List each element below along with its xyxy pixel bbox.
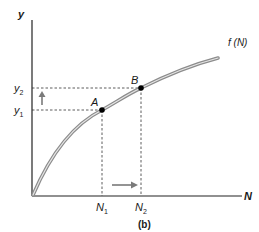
curve-f-n-highlight — [33, 58, 218, 195]
n1-label: N1 — [96, 202, 108, 215]
n1-subscript: 1 — [104, 208, 108, 215]
point-a — [99, 107, 105, 113]
n2-label: N2 — [135, 202, 147, 215]
n2-base: N — [135, 201, 143, 213]
y2-label: y2 — [14, 83, 23, 96]
y1-subscript: 1 — [20, 111, 24, 118]
n2-subscript: 2 — [143, 208, 147, 215]
x-axis-label: N — [244, 191, 252, 202]
curve-label: f (N) — [228, 38, 247, 48]
point-b — [138, 85, 144, 91]
y2-subscript: 2 — [20, 89, 24, 96]
point-a-label: A — [91, 97, 98, 108]
n1-base: N — [96, 201, 104, 213]
right-arrow-icon — [112, 182, 138, 189]
up-arrow-icon — [39, 91, 46, 105]
curve-f-n — [33, 58, 218, 195]
y1-label: y1 — [14, 105, 23, 118]
figure-caption: (b) — [138, 219, 151, 230]
production-function-diagram — [0, 0, 259, 232]
y-axis-label: y — [18, 9, 24, 20]
point-b-label: B — [131, 75, 138, 86]
